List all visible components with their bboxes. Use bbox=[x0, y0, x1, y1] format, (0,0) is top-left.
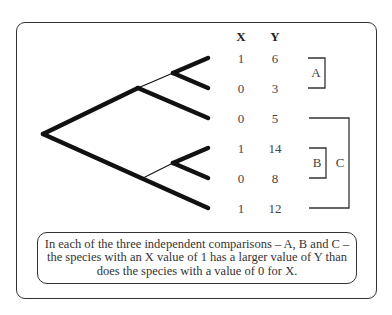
row-2-x: 0 bbox=[229, 82, 253, 96]
row-4-x: 1 bbox=[229, 142, 253, 156]
branch-root-upper bbox=[43, 88, 138, 134]
comparison-label-c: C bbox=[333, 156, 347, 170]
branch-tip-4 bbox=[173, 148, 208, 163]
branch-tip-5 bbox=[173, 163, 208, 178]
row-2-y: 3 bbox=[263, 82, 287, 96]
column-header-x: X bbox=[229, 30, 253, 44]
caption-line-1: In each of the three independent compari… bbox=[45, 238, 349, 252]
caption-box: In each of the three independent compari… bbox=[37, 232, 357, 284]
comparison-label-a: A bbox=[309, 66, 323, 80]
row-4-y: 14 bbox=[263, 142, 287, 156]
branch-tip-1 bbox=[173, 58, 208, 73]
caption-line-3: does the species with a value of 0 for X… bbox=[45, 265, 349, 279]
row-3-x: 0 bbox=[229, 112, 253, 126]
row-6-x: 1 bbox=[229, 202, 253, 216]
caption-text: In each of the three independent compari… bbox=[39, 238, 355, 279]
branch-tip-3 bbox=[138, 88, 208, 118]
branch-root-lower bbox=[43, 134, 208, 208]
row-3-y: 5 bbox=[263, 112, 287, 126]
row-5-y: 8 bbox=[263, 172, 287, 186]
comparison-label-b: B bbox=[310, 156, 324, 170]
caption-line-2: the species with an X value of 1 has a l… bbox=[45, 251, 349, 265]
branch-tip-2 bbox=[173, 73, 208, 88]
column-header-y: Y bbox=[263, 30, 287, 44]
branch-lower-sub bbox=[145, 163, 173, 177]
row-1-y: 6 bbox=[263, 52, 287, 66]
row-5-x: 0 bbox=[229, 172, 253, 186]
branch-upper-sub bbox=[138, 73, 173, 88]
row-6-y: 12 bbox=[263, 202, 287, 216]
row-1-x: 1 bbox=[229, 52, 253, 66]
